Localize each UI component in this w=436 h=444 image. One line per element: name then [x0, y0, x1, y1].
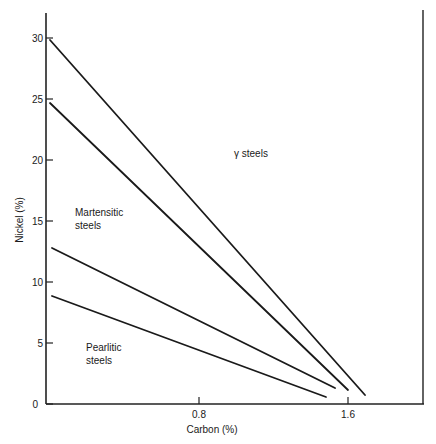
y-tick-label-15: 15	[32, 216, 44, 227]
x-tick-label-1.6: 1.6	[341, 409, 355, 420]
y-tick-label-5: 5	[37, 338, 43, 349]
boundary-line-3	[52, 248, 335, 388]
phase-diagram: 0 5 10 15 20 25 30 0.8 1.6 Carbon (%) Ni…	[0, 0, 436, 444]
y-tick-label-0: 0	[32, 399, 38, 410]
y-tick-label-20: 20	[32, 155, 44, 166]
pearlitic-steels-label-line2: steels	[86, 355, 112, 366]
martensitic-steels-label-line2: steels	[75, 220, 101, 231]
martensitic-steels-label-line1: Martensitic	[75, 207, 123, 218]
pearlitic-steels-label-line1: Pearlitic	[86, 342, 122, 353]
x-axis-label: Carbon (%)	[186, 424, 237, 435]
gamma-steels-label: γ steels	[234, 148, 268, 159]
x-tick-label-0.8: 0.8	[192, 409, 206, 420]
y-tick-label-10: 10	[32, 277, 44, 288]
y-tick-label-25: 25	[32, 94, 44, 105]
y-ticks	[46, 38, 53, 404]
y-tick-label-30: 30	[32, 33, 44, 44]
y-axis-label: Nickel (%)	[14, 197, 25, 243]
x-ticks	[199, 397, 348, 404]
